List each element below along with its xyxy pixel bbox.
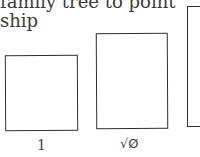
caption-line-2: ship [0, 10, 38, 31]
rectangle-3 [187, 6, 200, 127]
rectangle-1-label: 1 [37, 137, 46, 153]
rectangle-1 [5, 55, 78, 131]
rectangle-2 [96, 33, 169, 129]
rectangle-2-label: √Ø [120, 136, 139, 151]
